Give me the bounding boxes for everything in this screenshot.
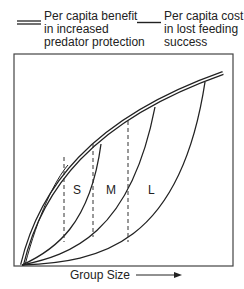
x-axis-label: Group Size xyxy=(70,268,182,282)
region-label-medium: M xyxy=(106,183,116,197)
cost-curve-medium xyxy=(22,107,155,265)
right-arrow-icon xyxy=(136,268,182,282)
region-label-small: S xyxy=(73,183,81,197)
benefit-curve xyxy=(22,73,223,265)
cost-curve-small xyxy=(22,144,101,265)
region-label-large: L xyxy=(148,183,155,197)
group-size-diagram xyxy=(0,0,244,289)
plot-frame xyxy=(14,54,233,266)
cost-curve-large xyxy=(22,82,205,265)
x-axis-title: Group Size xyxy=(70,268,130,282)
